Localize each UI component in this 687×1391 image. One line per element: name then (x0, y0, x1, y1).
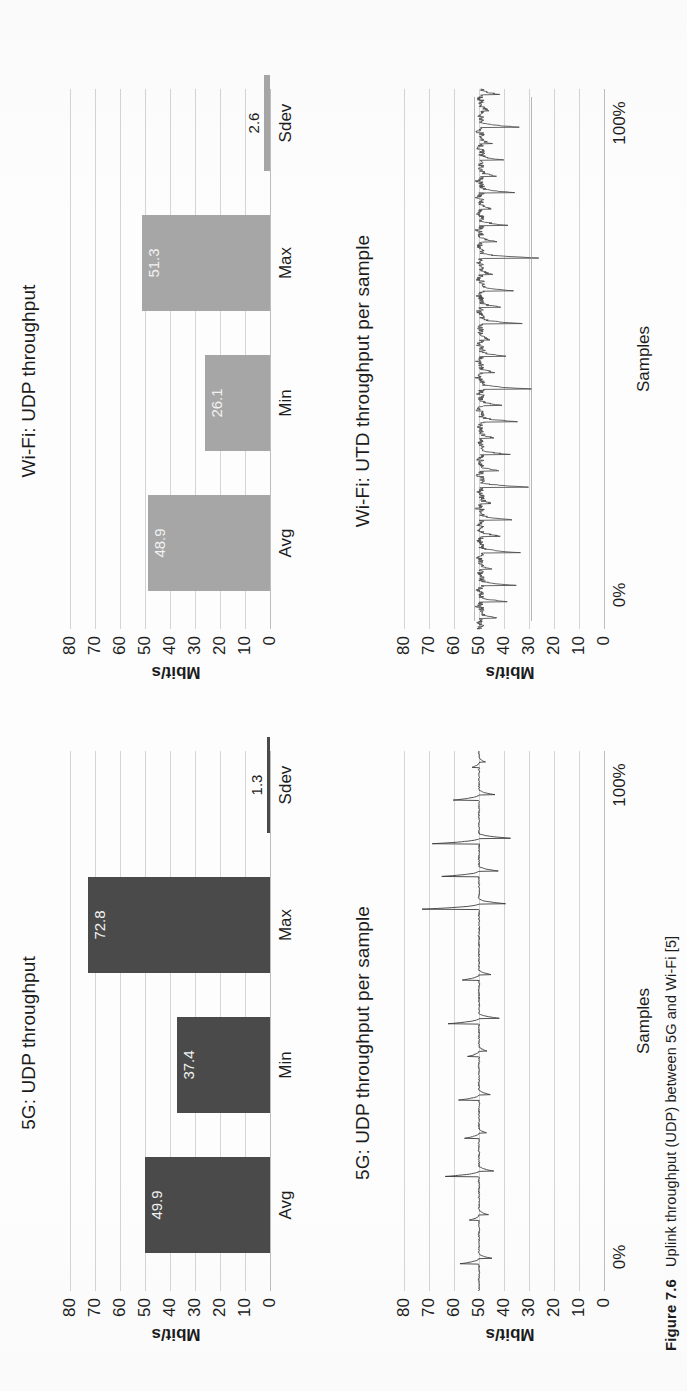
y-tick-10: 10 (569, 636, 589, 655)
x-category-avg: Avg (276, 529, 296, 558)
x-category-max: Max (276, 247, 296, 279)
gridline-0: 0 (270, 751, 271, 1291)
bar-sdev: 1.3 (267, 737, 270, 833)
trace-polyline (422, 751, 511, 1291)
x-category-sdev: Sdev (276, 766, 296, 805)
y-tick-20: 20 (210, 1298, 230, 1317)
bar-value-sdev: 2.6 (245, 113, 262, 134)
x-category-min: Min (276, 389, 296, 416)
chart-panel-wifi-utd-per-sample: Wi-Fi: UTD throughput per sample 8070605… (352, 71, 652, 691)
y-tick-30: 30 (519, 636, 539, 655)
bar-value-min: 26.1 (208, 388, 225, 417)
y-tick-10: 10 (235, 636, 255, 655)
bar-value-min: 37.4 (180, 1050, 197, 1079)
y-tick-20: 20 (544, 1298, 564, 1317)
bar-avg: 48.9 (148, 495, 270, 591)
gridline-60: 60 (120, 89, 121, 629)
bar-min: 26.1 (205, 355, 270, 451)
x-axis-label-samples: Samples (634, 89, 654, 629)
bar-min: 37.4 (177, 1017, 271, 1113)
y-tick-40: 40 (494, 1298, 514, 1317)
bar-sdev: 2.6 (264, 75, 271, 171)
chart-title-5g-udp-throughput: 5G: UDP throughput (18, 733, 40, 1353)
plot-area-5g-udp-per-sample: 80706050403020100 0% 100% Samples (404, 751, 604, 1291)
x-tick-end: 100% (610, 101, 630, 144)
x-tick-start: 0% (610, 1245, 630, 1270)
gridline-50: 50 (145, 89, 146, 629)
y-tick-60: 60 (110, 636, 130, 655)
trace-polyline (475, 89, 539, 629)
series-trace-5g (404, 751, 604, 1291)
y-tick-80: 80 (60, 636, 80, 655)
plot-area-wifi-utd-per-sample: 80706050403020100 0% 100% Samples (404, 89, 604, 629)
y-tick-40: 40 (160, 1298, 180, 1317)
x-category-min: Min (276, 1051, 296, 1078)
gridline-80: 80 (70, 751, 71, 1291)
y-tick-70: 70 (85, 1298, 105, 1317)
y-tick-40: 40 (494, 636, 514, 655)
x-axis-label-samples: Samples (634, 751, 654, 1291)
y-tick-80: 80 (394, 636, 414, 655)
y-tick-20: 20 (210, 636, 230, 655)
y-tick-0: 0 (260, 1298, 280, 1307)
y-tick-30: 30 (519, 1298, 539, 1317)
x-tick-start: 0% (610, 583, 630, 608)
y-tick-70: 70 (419, 636, 439, 655)
gridline-0: 0 (604, 751, 605, 1291)
chart-panel-5g-udp-throughput: 5G: UDP throughput 80706050403020100 49.… (18, 733, 318, 1353)
y-tick-50: 50 (469, 636, 489, 655)
figure-caption-text: Uplink throughput (UDP) between 5G and W… (663, 936, 679, 1267)
figure-caption: Figure 7.6 Uplink throughput (UDP) betwe… (662, 936, 679, 1351)
bar-value-avg: 48.9 (151, 528, 168, 557)
y-axis-label: Mbit/s (485, 662, 534, 682)
y-tick-0: 0 (594, 636, 614, 645)
y-tick-0: 0 (260, 636, 280, 645)
y-tick-60: 60 (110, 1298, 130, 1317)
chart-panel-wifi-udp-throughput: Wi-Fi: UDP throughput 80706050403020100 … (18, 71, 318, 691)
bar-avg: 49.9 (145, 1157, 270, 1253)
bar-max: 72.8 (88, 877, 270, 973)
plot-area-wifi-udp-throughput: 80706050403020100 48.9 26.1 51.3 2.6 Avg… (70, 89, 270, 629)
gridline-70: 70 (95, 89, 96, 629)
x-tick-end: 100% (610, 763, 630, 806)
y-tick-50: 50 (469, 1298, 489, 1317)
y-tick-30: 30 (185, 1298, 205, 1317)
scanned-page-rotated: 5G: UDP throughput 80706050403020100 49.… (0, 0, 687, 1391)
gridline-70: 70 (95, 751, 96, 1291)
chart-title-wifi-udp-throughput: Wi-Fi: UDP throughput (18, 71, 40, 691)
x-category-avg: Avg (276, 1191, 296, 1220)
chart-title-wifi-utd-per-sample: Wi-Fi: UTD throughput per sample (352, 71, 374, 691)
y-tick-80: 80 (60, 1298, 80, 1317)
y-tick-70: 70 (85, 636, 105, 655)
y-tick-60: 60 (444, 1298, 464, 1317)
gridline-0: 0 (270, 89, 271, 629)
y-tick-10: 10 (235, 1298, 255, 1317)
y-tick-60: 60 (444, 636, 464, 655)
y-tick-40: 40 (160, 636, 180, 655)
gridline-80: 80 (70, 89, 71, 629)
chart-title-5g-udp-per-sample: 5G: UDP throughput per sample (352, 733, 374, 1353)
gridline-0: 0 (604, 89, 605, 629)
figure-number: Figure 7.6 (662, 1279, 679, 1351)
x-category-sdev: Sdev (276, 104, 296, 143)
y-axis-label: Mbit/s (151, 662, 200, 682)
bar-max: 51.3 (142, 215, 270, 311)
y-tick-30: 30 (185, 636, 205, 655)
y-tick-10: 10 (569, 1298, 589, 1317)
y-tick-70: 70 (419, 1298, 439, 1317)
x-category-max: Max (276, 909, 296, 941)
series-trace-wifi (404, 89, 604, 629)
gridline-60: 60 (120, 751, 121, 1291)
plot-area-5g-udp-throughput: 80706050403020100 49.9 37.4 72.8 1.3 Avg… (70, 751, 270, 1291)
y-tick-0: 0 (594, 1298, 614, 1307)
y-tick-50: 50 (135, 636, 155, 655)
y-tick-50: 50 (135, 1298, 155, 1317)
y-tick-80: 80 (394, 1298, 414, 1317)
y-axis-label: Mbit/s (485, 1324, 534, 1344)
figure-page: 5G: UDP throughput 80706050403020100 49.… (0, 0, 687, 1391)
bar-value-max: 51.3 (145, 248, 162, 277)
y-tick-20: 20 (544, 636, 564, 655)
bar-value-avg: 49.9 (148, 1190, 165, 1219)
bar-value-max: 72.8 (91, 910, 108, 939)
chart-panel-5g-udp-per-sample: 5G: UDP throughput per sample 8070605040… (352, 733, 652, 1353)
